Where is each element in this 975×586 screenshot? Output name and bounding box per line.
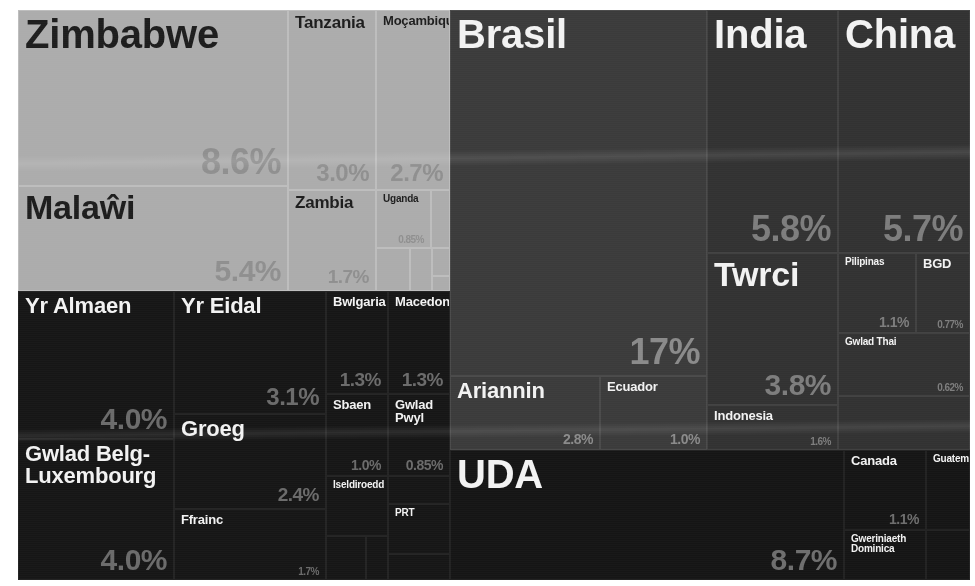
treemap-cell-canada[interactable]: Canada 1.1%	[844, 450, 926, 530]
treemap-cell-zambia[interactable]: Zambia 1.7%	[288, 190, 376, 291]
cell-value: 17%	[629, 331, 700, 373]
treemap-cell-bwlgaria[interactable]: Bwlgaria 1.3%	[326, 291, 388, 394]
cell-value: 1.1%	[879, 314, 909, 330]
cell-label: PRT	[389, 505, 449, 518]
cell-value: 5.8%	[751, 208, 831, 250]
treemap-cell-europe-filler-d[interactable]	[388, 554, 450, 580]
cell-value: 8.7%	[771, 543, 837, 577]
cell-value: 1.3%	[340, 369, 381, 391]
treemap-cell-namerica-filler-a[interactable]	[926, 530, 970, 580]
cell-value: 2.8%	[563, 431, 593, 447]
cell-label: Yr Eidal	[175, 292, 325, 317]
treemap-cell-china[interactable]: China 5.7%	[838, 10, 970, 253]
cell-value: 1.7%	[298, 566, 319, 577]
cell-value: 3.0%	[316, 159, 369, 187]
cell-value: 1.1%	[889, 511, 919, 527]
treemap-cell-ecuador[interactable]: Ecuador 1.0%	[600, 376, 707, 450]
treemap-cell-africa-filler-b[interactable]	[376, 248, 410, 291]
cell-value: 2.7%	[390, 159, 443, 187]
cell-value: 3.1%	[266, 383, 319, 411]
treemap-cell-macedonia[interactable]: Macedonia 1.3%	[388, 291, 450, 394]
cell-value: 4.0%	[101, 402, 167, 436]
cell-value: 8.6%	[201, 141, 281, 183]
treemap-region-asia: India 5.8% China 5.7% Twrci 3.8% Indones…	[707, 10, 970, 450]
treemap-cell-zimbabwe[interactable]: Zimbabwe 8.6%	[18, 10, 288, 186]
treemap-region-north-america: UDA 8.7% Canada 1.1% Guatemala Gweriniae…	[450, 450, 970, 580]
treemap-cell-africa-filler-a[interactable]	[431, 190, 450, 248]
treemap-cell-gwlad-pwyl[interactable]: Gwlad Pwyl 0.85%	[388, 394, 450, 476]
treemap-cell-tanzania[interactable]: Tanzania 3.0%	[288, 10, 376, 190]
cell-label: Macedonia	[389, 292, 449, 308]
cell-label: Yr Almaen	[19, 292, 173, 317]
cell-label: Guatemala	[927, 451, 969, 464]
cell-label: Ffrainc	[175, 510, 325, 526]
cell-label: Ariannin	[451, 377, 599, 402]
treemap-cell-brasil[interactable]: Brasil 17%	[450, 10, 707, 376]
cell-label: Indonesia	[708, 406, 837, 422]
cell-value: 5.4%	[215, 254, 281, 288]
cell-value: 1.3%	[402, 369, 443, 391]
treemap-region-south-america: Brasil 17% Ariannin 2.8% Ecuador 1.0%	[450, 10, 707, 450]
cell-value: 0.85%	[398, 234, 424, 245]
treemap-cell-europe-filler-b[interactable]	[326, 536, 366, 580]
treemap-cell-bgd[interactable]: BGD 0.77%	[916, 253, 970, 333]
cell-label: Groeg	[175, 415, 325, 440]
cell-label: UDA	[451, 451, 843, 495]
treemap-cell-indonesia[interactable]: Indonesia 1.6%	[707, 405, 838, 450]
treemap-cell-twrci[interactable]: Twrci 3.8%	[707, 253, 838, 405]
cell-value: 4.0%	[101, 543, 167, 577]
cell-label: Twrci	[708, 254, 837, 292]
treemap-region-africa: Zimbabwe 8.6% Malaŵi 5.4% Tanzania 3.0% …	[18, 10, 450, 291]
treemap-cell-yr-almaen[interactable]: Yr Almaen 4.0%	[18, 291, 174, 439]
cell-value: 1.6%	[810, 436, 831, 447]
cell-label: Sbaen	[327, 395, 387, 411]
treemap-cell-ffrainc[interactable]: Ffrainc 1.7%	[174, 509, 326, 580]
cell-label: Malaŵi	[19, 187, 287, 225]
treemap-cell-guatemala[interactable]: Guatemala	[926, 450, 970, 530]
treemap-cell-africa-filler-e[interactable]	[432, 276, 450, 291]
treemap-cell-europe-filler-a[interactable]	[388, 476, 450, 504]
cell-label: Uganda	[377, 191, 430, 204]
cell-label: Zambia	[289, 191, 375, 211]
treemap-cell-sbaen[interactable]: Sbaen 1.0%	[326, 394, 388, 476]
cell-value: 1.0%	[351, 457, 381, 473]
treemap-cell-gweriniaeth-dominica[interactable]: Gweriniaeth Dominica	[844, 530, 926, 580]
treemap-cell-iseldiroedd[interactable]: Iseldiroedd	[326, 476, 388, 536]
treemap-cell-ariannin[interactable]: Ariannin 2.8%	[450, 376, 600, 450]
treemap-cell-gwlad-belg-luxembourg[interactable]: Gwlad Belg-Luxembourg 4.0%	[18, 439, 174, 580]
treemap-cell-india[interactable]: India 5.8%	[707, 10, 838, 253]
cell-label: India	[708, 11, 837, 55]
treemap-cell-pilipinas[interactable]: Pilipinas 1.1%	[838, 253, 916, 333]
cell-value: 5.7%	[883, 208, 963, 250]
cell-label: Moçambique	[377, 11, 449, 27]
cell-label: Bwlgaria	[327, 292, 387, 308]
treemap-chart: Zimbabwe 8.6% Malaŵi 5.4% Tanzania 3.0% …	[18, 10, 970, 580]
cell-value: 2.4%	[278, 484, 319, 506]
treemap-cell-africa-filler-d[interactable]	[432, 248, 450, 276]
cell-label: China	[839, 11, 969, 55]
treemap-cell-uganda[interactable]: Uganda 0.85%	[376, 190, 431, 248]
treemap-cell-gwlad-thai[interactable]: Gwlad Thai 0.62%	[838, 333, 970, 396]
treemap-cell-europe-filler-c[interactable]	[366, 536, 388, 580]
treemap-cell-asia-filler-a[interactable]	[838, 396, 970, 450]
cell-label: Gwlad Pwyl	[389, 395, 449, 425]
cell-value: 1.0%	[670, 431, 700, 447]
cell-label: Ecuador	[601, 377, 706, 393]
treemap-cell-yr-eidal[interactable]: Yr Eidal 3.1%	[174, 291, 326, 414]
cell-value: 1.7%	[328, 266, 369, 288]
treemap-cell-africa-filler-c[interactable]	[410, 248, 432, 291]
treemap-cell-groeg[interactable]: Groeg 2.4%	[174, 414, 326, 509]
cell-label: Zimbabwe	[19, 11, 287, 55]
treemap-region-europe: Yr Almaen 4.0% Gwlad Belg-Luxembourg 4.0…	[18, 291, 450, 580]
cell-label: Gweriniaeth Dominica	[845, 531, 925, 554]
treemap-cell-prt[interactable]: PRT	[388, 504, 450, 554]
treemap-cell-malawi[interactable]: Malaŵi 5.4%	[18, 186, 288, 291]
cell-value: 0.62%	[937, 382, 963, 393]
cell-label: Canada	[845, 451, 925, 467]
cell-label: Iseldiroedd	[327, 477, 387, 490]
cell-label: BGD	[917, 254, 969, 270]
treemap-cell-uda[interactable]: UDA 8.7%	[450, 450, 844, 580]
treemap-cell-mocambique[interactable]: Moçambique 2.7%	[376, 10, 450, 190]
cell-label: Tanzania	[289, 11, 375, 31]
cell-label: Gwlad Belg-Luxembourg	[19, 440, 173, 488]
